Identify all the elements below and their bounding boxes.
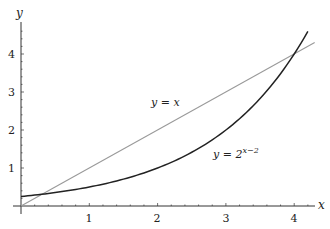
annotation-y-equals-x: y = x bbox=[150, 96, 180, 109]
x-tick-label: 3 bbox=[223, 212, 230, 225]
x-tick-label: 1 bbox=[86, 212, 93, 225]
x-tick-label: 2 bbox=[154, 212, 161, 225]
y-tick-label: 4 bbox=[8, 48, 15, 61]
y-axis-label: y bbox=[15, 6, 23, 20]
x-minor-ticks bbox=[35, 203, 308, 206]
series-curve-exponential bbox=[21, 31, 308, 196]
annotation-exponential-base: y = 2 bbox=[212, 148, 242, 161]
y-tick-label: 2 bbox=[8, 124, 15, 137]
function-plot: 1 2 3 4 1 2 3 4 x y y = x y = 2x−2 bbox=[0, 0, 330, 229]
x-axis-label: x bbox=[318, 198, 325, 212]
series-line-y-equals-x bbox=[21, 43, 315, 206]
y-tick-label: 3 bbox=[8, 86, 15, 99]
y-tick-label: 1 bbox=[8, 162, 15, 175]
annotation-exponential-exponent: x−2 bbox=[242, 146, 258, 155]
x-tick-label: 4 bbox=[291, 212, 298, 225]
annotation-exponential: y = 2x−2 bbox=[212, 146, 259, 161]
